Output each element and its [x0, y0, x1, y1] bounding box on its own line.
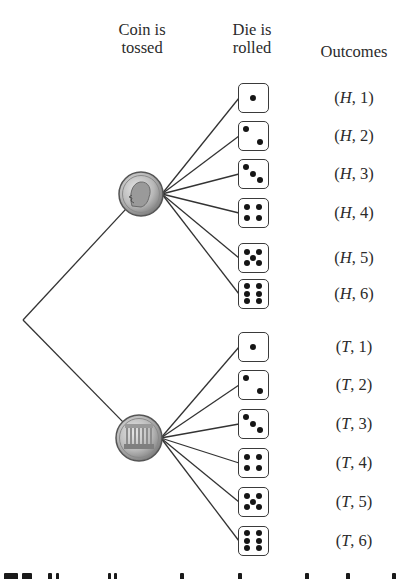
- coin-to-die-edge: [161, 424, 239, 438]
- die-pip: [243, 414, 249, 420]
- die-pip: [256, 283, 262, 289]
- outcome-label: (T, 5): [308, 492, 400, 512]
- die-pip: [250, 499, 256, 505]
- die-pip: [244, 530, 250, 536]
- die-pip: [244, 504, 250, 510]
- die-face-3-icon: [238, 159, 269, 189]
- die-pip: [256, 291, 262, 297]
- outcome-coin-face: T: [341, 414, 350, 433]
- tails-coin-icon: [116, 415, 162, 461]
- coins: [116, 172, 163, 461]
- die-pip: [250, 421, 256, 427]
- die-pip: [257, 177, 263, 183]
- outcome-label: (H, 3): [308, 164, 400, 184]
- coin-to-die-edge: [162, 136, 239, 194]
- root-to-coin-edge: [23, 209, 126, 320]
- outcome-die-value: 5: [360, 248, 368, 267]
- coin-to-die-edge: [161, 438, 239, 502]
- outcome-coin-face: H: [340, 126, 352, 145]
- outcome-label: (T, 3): [308, 414, 400, 434]
- outcome-coin-face: T: [341, 453, 350, 472]
- die-pip: [244, 538, 250, 544]
- outcome-coin-face: H: [340, 248, 352, 267]
- die-pip: [256, 504, 262, 510]
- outcome-coin-face: H: [340, 284, 352, 303]
- outcome-label: (H, 1): [308, 88, 400, 108]
- outcome-die-value: 4: [360, 203, 368, 222]
- die-pip: [250, 255, 256, 261]
- die-pip: [256, 493, 262, 499]
- root-to-coin-edge: [23, 320, 123, 422]
- outcome-coin-face: H: [340, 164, 352, 183]
- die-pip: [244, 260, 250, 266]
- die-pip: [257, 139, 263, 145]
- outcome-label: (H, 4): [308, 203, 400, 223]
- die-pip: [243, 164, 249, 170]
- outcome-die-value: 3: [360, 164, 368, 183]
- outcome-label: (H, 6): [308, 284, 400, 304]
- tree-edges: [23, 98, 239, 541]
- die-face-2-icon: [238, 121, 269, 151]
- outcome-die-value: 6: [359, 531, 367, 550]
- die-pip: [244, 291, 250, 297]
- outcome-label: (T, 4): [308, 453, 400, 473]
- die-pip: [244, 283, 250, 289]
- die-pip: [256, 454, 262, 460]
- die-pip: [256, 465, 262, 471]
- coin-to-die-edge: [162, 98, 239, 194]
- die-pip: [244, 204, 250, 210]
- die-face-6-icon: [238, 279, 269, 309]
- outcome-coin-face: H: [340, 88, 352, 107]
- die-face-2-icon: [238, 370, 269, 400]
- die-pip: [243, 375, 249, 381]
- heads-coin-icon: [119, 172, 163, 216]
- outcome-label: (T, 2): [308, 375, 400, 395]
- outcome-die-value: 2: [360, 126, 368, 145]
- die-pip: [256, 298, 262, 304]
- die-pip: [256, 530, 262, 536]
- outcome-label: (T, 1): [308, 337, 400, 357]
- die-pip: [244, 465, 250, 471]
- die-pip: [244, 493, 250, 499]
- die-pip: [244, 298, 250, 304]
- die-pip: [256, 204, 262, 210]
- die-face-5-icon: [238, 487, 269, 517]
- die-face-3-icon: [238, 409, 269, 439]
- coin-to-die-edge: [161, 438, 239, 541]
- outcome-coin-face: T: [341, 337, 350, 356]
- die-pip: [256, 260, 262, 266]
- outcome-die-value: 1: [360, 88, 368, 107]
- die-face-1-icon: [238, 83, 269, 113]
- die-pip: [250, 344, 256, 350]
- die-face-4-icon: [238, 198, 269, 228]
- outcome-coin-face: H: [340, 203, 352, 222]
- die-pip: [257, 388, 263, 394]
- outcome-coin-face: T: [341, 531, 350, 550]
- outcome-coin-face: T: [341, 375, 350, 394]
- outcome-die-value: 1: [359, 337, 367, 356]
- coin-to-die-edge: [162, 194, 239, 294]
- outcome-coin-face: T: [341, 492, 350, 511]
- die-face-1-icon: [238, 332, 269, 362]
- die-pip: [256, 538, 262, 544]
- outcome-label: (H, 2): [308, 126, 400, 146]
- die-pip: [256, 545, 262, 551]
- outcome-die-value: 2: [359, 375, 367, 394]
- coin-to-die-edge: [162, 174, 239, 194]
- outcome-label: (T, 6): [308, 531, 400, 551]
- die-pip: [257, 427, 263, 433]
- die-pip: [256, 215, 262, 221]
- caption-cropped: [0, 571, 411, 579]
- die-pip: [244, 249, 250, 255]
- die-pip: [244, 215, 250, 221]
- die-pip: [250, 171, 256, 177]
- die-pip: [250, 95, 256, 101]
- outcome-die-value: 6: [360, 284, 368, 303]
- die-face-4-icon: [238, 448, 269, 478]
- die-pip: [243, 126, 249, 132]
- outcome-label: (H, 5): [308, 248, 400, 268]
- die-pip: [244, 454, 250, 460]
- die-face-6-icon: [238, 526, 269, 556]
- outcome-die-value: 5: [359, 492, 367, 511]
- coin-to-die-edge: [161, 438, 239, 463]
